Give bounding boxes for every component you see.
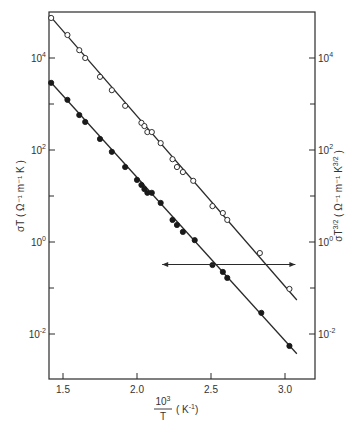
- open-circle-point: [225, 217, 230, 222]
- open-circle-point: [180, 169, 185, 174]
- filled-circle-point: [287, 343, 292, 348]
- open-circle-point: [210, 204, 215, 209]
- arrow-right-icon: [289, 262, 295, 267]
- filled-circle-point: [149, 190, 154, 195]
- y-tick-label-right: 10-2: [318, 327, 335, 340]
- open-circle-point: [149, 129, 154, 134]
- open-circle-point: [49, 15, 54, 20]
- plot-frame: [49, 12, 315, 379]
- filled-circle-point: [77, 112, 82, 117]
- filled-circle-point: [225, 275, 230, 280]
- open-circle-point: [65, 32, 70, 37]
- x-axis-ticks: 1.52.02.53.0: [56, 373, 292, 395]
- filled-circle-point: [97, 136, 102, 141]
- y-axis-ticks: 10410410210210010010-210-2: [29, 51, 336, 340]
- open-circle-point: [287, 286, 292, 291]
- open-circle-point: [191, 178, 196, 183]
- y-tick-label-right: 102: [318, 143, 333, 156]
- axis-arrow-annotation: [162, 262, 295, 267]
- x-tick-label: 3.0: [278, 384, 292, 395]
- y-tick-label-left: 102: [31, 143, 46, 156]
- open-circle-point: [97, 74, 102, 79]
- filled-circle-point: [158, 200, 163, 205]
- filled-circle-point: [259, 310, 264, 315]
- data-points: [49, 15, 292, 348]
- y-tick-label-left: 100: [31, 235, 46, 248]
- filled-circle-point: [83, 119, 88, 124]
- plot-border: [49, 12, 315, 379]
- y-axis-label-right: σT3/2 ( Ω⁻¹ m⁻¹ K3/2 ): [332, 150, 344, 241]
- open-circle-point: [257, 250, 262, 255]
- x-tick-label: 1.5: [56, 384, 70, 395]
- open-circle-point: [123, 103, 128, 108]
- filled-circle-point: [109, 149, 114, 154]
- y-tick-label-right: 104: [318, 51, 333, 64]
- x-axis-label-unit: ( K-1): [176, 403, 198, 415]
- arrow-left-icon: [162, 262, 168, 267]
- filled-circle-point: [174, 222, 179, 227]
- fit-lines: [50, 16, 297, 354]
- x-tick-label: 2.0: [130, 384, 144, 395]
- filled-circle-point: [170, 217, 175, 222]
- y-tick-label-left: 10-2: [29, 327, 46, 340]
- filled-circle-point: [192, 238, 197, 243]
- filled-circle-point: [65, 97, 70, 102]
- filled-circle-point: [123, 164, 128, 169]
- axis-labels: σT ( Ω⁻¹ m⁻¹ K )σT3/2 ( Ω⁻¹ m⁻¹ K3/2 )10…: [15, 150, 344, 422]
- y-tick-label-right: 100: [318, 235, 333, 248]
- x-axis-label-denominator: T: [160, 411, 166, 422]
- y-tick-label-left: 104: [31, 51, 46, 64]
- open-circle-point: [220, 210, 225, 215]
- filled-circle-point: [180, 229, 185, 234]
- filled-circle-point: [134, 177, 139, 182]
- chart-svg: 1.52.02.53.0 10410410210210010010-210-2 …: [0, 0, 363, 437]
- open-circle-point: [77, 48, 82, 53]
- filled-circle-point: [49, 80, 54, 85]
- x-tick-label: 2.5: [204, 384, 218, 395]
- filled-circle-point: [220, 269, 225, 274]
- y-axis-label-left: σT ( Ω⁻¹ m⁻¹ K ): [15, 160, 26, 232]
- x-axis-label-numerator: 103: [155, 395, 170, 407]
- open-circle-point: [83, 55, 88, 60]
- open-circle-point: [158, 141, 163, 146]
- open-circle-point: [109, 88, 114, 93]
- open-circle-point: [142, 123, 147, 128]
- open-circle-point: [174, 164, 179, 169]
- open-circle-point: [170, 157, 175, 162]
